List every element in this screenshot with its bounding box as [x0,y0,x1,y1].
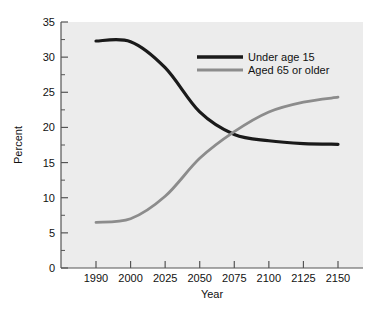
y-tick-label: 20 [43,121,55,133]
y-tick-label: 10 [43,192,55,204]
chart-svg: 05101520253035 1990200020252050207521002… [0,0,383,314]
x-tick-label: 2050 [187,272,211,284]
x-tick-label: 2150 [326,272,350,284]
y-tick-label: 5 [49,227,55,239]
chart-figure: 05101520253035 1990200020252050207521002… [0,0,383,314]
y-tick-label: 30 [43,51,55,63]
legend-label-1: Aged 65 or older [248,64,330,76]
legend-label-0: Under age 15 [248,51,315,63]
x-tick-label: 2025 [153,272,177,284]
x-axis-title: Year [201,288,224,300]
y-tick-label: 15 [43,157,55,169]
x-tick-label: 2000 [118,272,142,284]
x-tick-label: 2125 [291,272,315,284]
y-tick-label: 25 [43,86,55,98]
y-tick-label: 0 [49,262,55,274]
x-tick-label: 1990 [84,272,108,284]
x-tick-label: 2075 [222,272,246,284]
y-axis-title: Percent [12,126,24,164]
x-tick-label: 2100 [257,272,281,284]
y-tick-label: 35 [43,16,55,28]
